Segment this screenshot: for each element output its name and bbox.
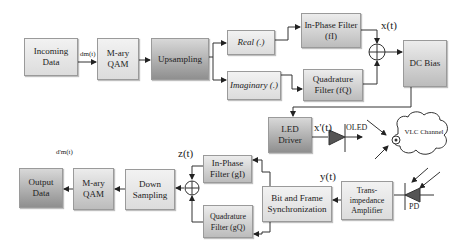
signal-dm-label: dm(t) xyxy=(80,50,96,58)
pd-label: PD xyxy=(409,202,419,211)
summing-junction-rx xyxy=(185,181,199,195)
mary-qam-tx-block: M-ary QAM xyxy=(97,38,139,80)
quadrature-filter-tx-label: Quadrature Filter (fQ) xyxy=(304,74,362,96)
real-block: Real (.) xyxy=(227,30,275,55)
signal-xprime-label: x'(t) xyxy=(314,121,332,133)
upsampling-block: Upsampling xyxy=(151,38,209,80)
inphase-filter-tx-block: In-Phase Filter (fI) xyxy=(301,13,361,48)
quadrature-filter-tx-block: Quadrature Filter (fQ) xyxy=(303,69,363,101)
vlc-channel-label: VLC Channel xyxy=(404,128,444,137)
led-driver-block: LED Driver xyxy=(268,117,312,153)
imaginary-label: Imaginary (.) xyxy=(230,80,278,91)
upsampling-label: Upsampling xyxy=(158,54,202,65)
output-data-label: Output Data xyxy=(20,177,62,199)
tia-label: Trans-impedance Amplifier xyxy=(342,186,392,216)
summing-junction-tx xyxy=(369,44,385,60)
inphase-filter-rx-label: In-Phase Filter (gI) xyxy=(204,158,251,180)
down-sampling-block: Down Sampling xyxy=(125,169,175,210)
output-data-block: Output Data xyxy=(19,168,63,208)
sync-block: Bit and Frame Synchronization xyxy=(262,186,332,222)
tia-block: Trans-impedance Amplifier xyxy=(341,181,393,220)
inphase-filter-tx-label: In-Phase Filter (fI) xyxy=(302,20,360,42)
incoming-data-label: Incoming Data xyxy=(25,46,77,68)
mary-qam-tx-label: M-ary QAM xyxy=(98,48,138,70)
dc-bias-label: DC Bias xyxy=(410,58,441,69)
quadrature-filter-rx-block: Quadrature Filter (gQ) xyxy=(203,205,253,238)
mary-qam-rx-block: M-ary QAM xyxy=(73,168,114,210)
inphase-filter-rx-block: In-Phase Filter (gI) xyxy=(203,155,252,183)
signal-x-label: x(t) xyxy=(381,19,397,31)
real-label: Real (.) xyxy=(238,37,265,48)
signal-dm-prime-label: d'm(t) xyxy=(56,148,73,156)
oled-label: OLED xyxy=(346,123,367,132)
imaginary-block: Imaginary (.) xyxy=(227,71,281,100)
mary-qam-rx-label: M-ary QAM xyxy=(74,178,113,200)
led-driver-label: LED Driver xyxy=(269,124,311,146)
signal-z-label: z(t) xyxy=(178,147,193,159)
quadrature-filter-rx-label: Quadrature Filter (gQ) xyxy=(204,211,252,233)
incoming-data-block: Incoming Data xyxy=(24,38,78,76)
photodiode-icon xyxy=(405,188,420,202)
dc-bias-block: DC Bias xyxy=(403,40,447,87)
sync-label: Bit and Frame Synchronization xyxy=(263,193,331,215)
down-sampling-label: Down Sampling xyxy=(126,179,174,201)
signal-y-label: y(t) xyxy=(320,170,336,182)
